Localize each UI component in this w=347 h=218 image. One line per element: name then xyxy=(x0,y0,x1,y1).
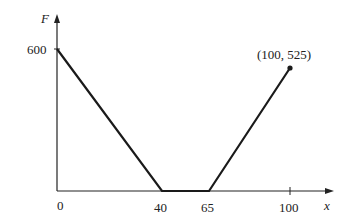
endpoint-dot xyxy=(287,65,292,70)
x-tick-label-40: 40 xyxy=(154,200,167,215)
endpoint-annotation: (100, 525) xyxy=(257,47,311,62)
piecewise-line-chart: F 600 0 40 65 100 x (100, 525) xyxy=(0,0,347,218)
data-line-F xyxy=(57,49,290,191)
y-tick-label-600: 600 xyxy=(27,42,47,57)
x-axis-arrow-icon xyxy=(325,188,334,194)
x-tick-label-65: 65 xyxy=(201,200,214,215)
x-tick-label-100: 100 xyxy=(279,200,299,215)
y-axis-label: F xyxy=(40,11,50,26)
x-tick-label-0: 0 xyxy=(57,198,64,213)
y-axis-arrow-icon xyxy=(54,14,60,23)
x-axis-label: x xyxy=(323,198,330,213)
